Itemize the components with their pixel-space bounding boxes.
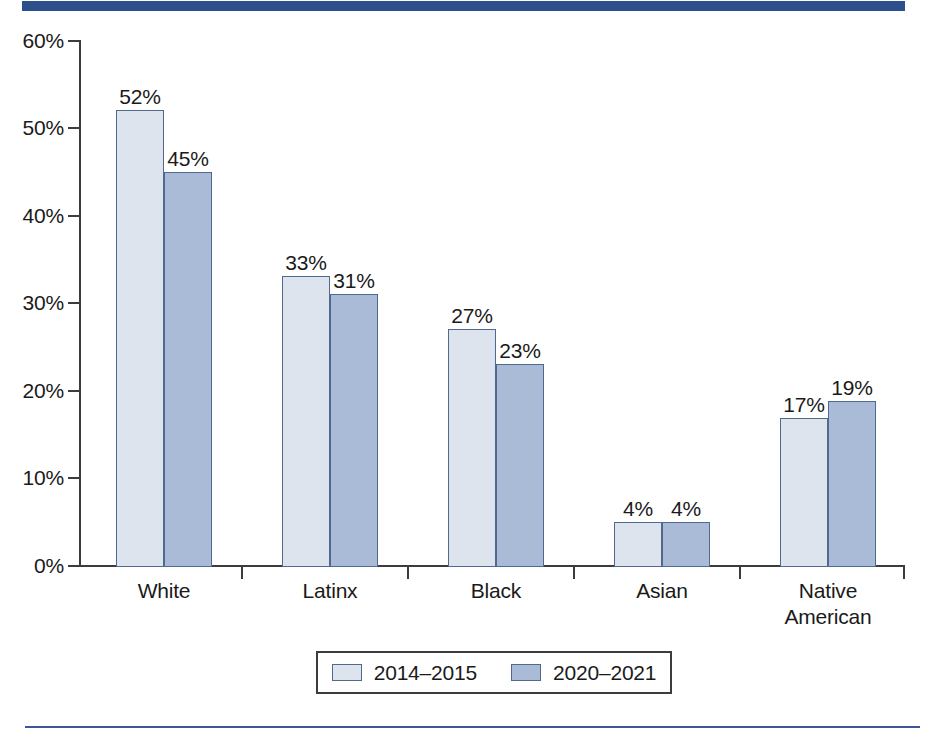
bar-label-latinx-2020-2021: 31%	[320, 270, 388, 291]
y-tick-label-10: 10%	[2, 467, 64, 488]
bar-asian-2020-2021	[662, 522, 710, 567]
bar-latinx-2014-2015	[282, 276, 330, 567]
bar-native-american-2020-2021	[828, 401, 876, 567]
y-tick-10	[68, 477, 79, 479]
category-label-white: White	[94, 578, 234, 603]
bar-label-black-2014-2015: 27%	[438, 305, 506, 326]
bar-label-asian-2020-2021: 4%	[652, 498, 720, 519]
y-tick-40	[68, 215, 79, 217]
y-tick-20	[68, 390, 79, 392]
bar-asian-2014-2015	[614, 522, 662, 567]
y-tick-label-10-wrap: 10%	[0, 467, 64, 488]
y-tick-50	[68, 127, 79, 129]
y-tick-label-30-wrap: 30%	[0, 292, 64, 313]
x-tick-2	[407, 567, 409, 579]
bar-white-2014-2015	[116, 110, 164, 567]
bar-native-american-2014-2015	[780, 418, 828, 567]
category-label-latinx: Latinx	[260, 578, 400, 603]
y-tick-label-50-wrap: 50%	[0, 117, 64, 138]
grouped-bar-chart: 60% 50% 40% 30% 20% 10% 0% 52% 45% White…	[0, 0, 936, 744]
y-axis-line	[79, 40, 81, 567]
legend-label-2014-2015: 2014–2015	[374, 662, 477, 683]
bar-latinx-2020-2021	[330, 294, 378, 567]
legend-swatch-2014-2015	[332, 664, 362, 681]
category-label-native-american-line1: Native	[758, 578, 898, 603]
y-tick-label-60-wrap: 60%	[0, 30, 64, 51]
y-tick-label-20-wrap: 20%	[0, 380, 64, 401]
y-tick-60	[68, 40, 79, 42]
bar-label-native-american-2020-2021: 19%	[818, 377, 886, 398]
legend-swatch-2020-2021	[511, 664, 541, 681]
y-tick-label-40-wrap: 40%	[0, 205, 64, 226]
y-tick-label-60: 60%	[2, 30, 64, 51]
bar-black-2020-2021	[496, 364, 544, 567]
y-tick-30	[68, 302, 79, 304]
bottom-divider-rule	[25, 726, 920, 728]
y-tick-label-50: 50%	[2, 117, 64, 138]
category-label-asian: Asian	[592, 578, 732, 603]
x-tick-5	[903, 567, 905, 579]
legend-label-2020-2021: 2020–2021	[553, 662, 656, 683]
y-tick-label-20: 20%	[2, 380, 64, 401]
x-tick-1	[241, 567, 243, 579]
y-tick-label-0-wrap: 0%	[0, 555, 64, 576]
x-tick-4	[739, 567, 741, 579]
bar-white-2020-2021	[164, 172, 212, 567]
bar-black-2014-2015	[448, 329, 496, 567]
y-tick-label-40: 40%	[2, 205, 64, 226]
y-tick-label-0: 0%	[2, 555, 64, 576]
category-label-native-american-line2: American	[758, 604, 898, 629]
category-label-black: Black	[426, 578, 566, 603]
bar-label-white-2020-2021: 45%	[154, 148, 222, 169]
bar-label-white-2014-2015: 52%	[106, 86, 174, 107]
bar-label-black-2020-2021: 23%	[486, 340, 554, 361]
chart-legend: 2014–2015 2020–2021	[316, 651, 672, 694]
y-tick-0	[68, 565, 79, 567]
x-tick-3	[573, 567, 575, 579]
y-tick-label-30: 30%	[2, 292, 64, 313]
legend-item-2014-2015[interactable]: 2014–2015	[332, 662, 477, 683]
legend-item-2020-2021[interactable]: 2020–2021	[511, 662, 656, 683]
